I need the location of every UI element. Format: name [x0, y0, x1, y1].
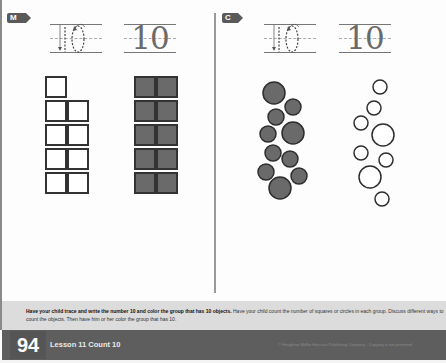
circle-group-colored[interactable] [255, 75, 330, 215]
copyright-notice: © Houghton Mifflin Harcourt Publishing C… [278, 342, 412, 347]
written-number-guide-m: 10 [124, 24, 176, 54]
written-number: 10 [124, 21, 176, 55]
parent-instructions: Have your child trace and write the numb… [2, 301, 446, 330]
lesson-title: Lesson 11 Count 10 [50, 340, 120, 349]
page-footer: 94 Lesson 11 Count 10 © Houghton Mifflin… [2, 330, 446, 360]
section-divider [214, 13, 216, 293]
dashed-10-trace-icon [50, 20, 102, 56]
trace-number-guide-c [264, 24, 316, 54]
trace-number-guide-m [50, 24, 102, 54]
section-badge-m: M [7, 13, 26, 23]
instructions-bold: Have your child trace and write the numb… [26, 308, 232, 314]
page-number: 94 [10, 331, 46, 359]
dashed-10-trace-icon [264, 20, 316, 56]
page-edge [0, 0, 2, 330]
section-badge-c: C [222, 13, 238, 23]
written-number: 10 [339, 21, 391, 55]
circle-group-uncolored[interactable] [340, 75, 415, 215]
worksheet-page: M 10 C [0, 0, 446, 363]
written-number-guide-c: 10 [339, 24, 391, 54]
